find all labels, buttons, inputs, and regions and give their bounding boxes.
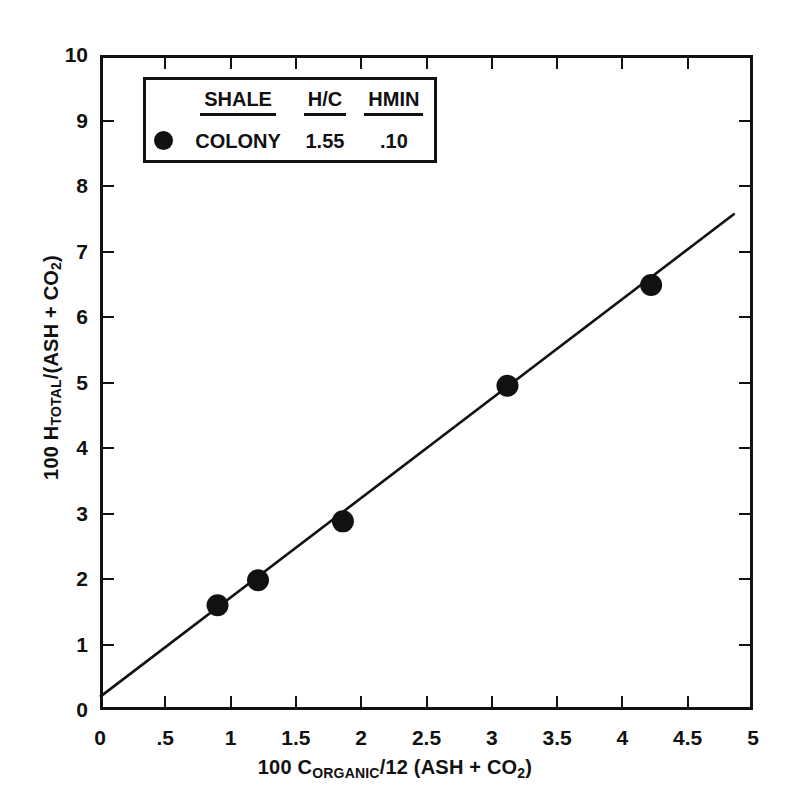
y-tick-left: [100, 513, 114, 515]
x-tick-top: [426, 55, 428, 69]
x-title-mid: /12 (ASH + CO: [380, 756, 518, 778]
x-tick-label: 3.5: [542, 726, 571, 750]
y-tick-left: [100, 316, 114, 318]
x-tick-bottom: [687, 696, 689, 710]
x-tick-label: 3: [486, 726, 498, 750]
y-tick-label: 0: [48, 698, 88, 722]
x-tick-bottom: [556, 696, 558, 710]
legend-header-shale: SHALE: [180, 80, 296, 124]
y-tick-left: [100, 578, 114, 580]
legend-header-row: SHALE H/C HMIN: [146, 80, 434, 124]
x-tick-top: [360, 55, 362, 69]
x-title-prefix: 100 C: [258, 756, 312, 778]
x-tick-bottom: [491, 696, 493, 710]
legend-box: SHALE H/C HMIN COLONY 1.55 .10: [143, 77, 437, 163]
legend-header-hmin-text: HMIN: [364, 88, 423, 116]
x-tick-top: [230, 55, 232, 69]
legend-header-spacer: [146, 80, 180, 124]
y-tick-right: [739, 251, 753, 253]
chart-figure: 0.511.522.533.544.55 012345678910 SHALE …: [0, 0, 790, 812]
x-tick-top: [621, 55, 623, 69]
y-axis-title: 100 HTOTAL/(ASH + CO2): [40, 57, 65, 677]
x-tick-bottom: [426, 696, 428, 710]
x-tick-bottom: [360, 696, 362, 710]
x-tick-bottom: [295, 696, 297, 710]
legend-header-hmin: HMIN: [354, 80, 434, 124]
x-tick-bottom: [230, 696, 232, 710]
x-tick-top: [295, 55, 297, 69]
x-axis-title: 100 CORGANIC/12 (ASH + CO2): [0, 756, 790, 781]
y-tick-right: [739, 513, 753, 515]
y-title-mid: /(ASH + CO: [40, 270, 62, 379]
x-tick-label: 4.5: [673, 726, 702, 750]
x-tick-top: [687, 55, 689, 69]
x-tick-label: 4: [617, 726, 629, 750]
y-tick-left: [100, 447, 114, 449]
y-tick-right: [739, 447, 753, 449]
y-tick-right: [739, 185, 753, 187]
x-title-subscript: ORGANIC: [312, 765, 380, 781]
legend-shale-value: COLONY: [180, 124, 296, 160]
y-tick-right: [739, 644, 753, 646]
legend-header-shale-text: SHALE: [200, 88, 276, 116]
x-tick-label: 1.5: [281, 726, 310, 750]
legend-marker-cell: [146, 124, 180, 160]
x-tick-top: [491, 55, 493, 69]
x-tick-label: 0: [94, 726, 106, 750]
y-title-subscript-2: 2: [48, 262, 64, 270]
legend-hc-value: 1.55: [296, 124, 354, 160]
y-tick-right: [739, 120, 753, 122]
x-tick-top: [556, 55, 558, 69]
x-tick-label: .5: [157, 726, 175, 750]
x-tick-label: 1: [225, 726, 237, 750]
y-tick-right: [739, 578, 753, 580]
y-tick-left: [100, 644, 114, 646]
x-tick-bottom: [621, 696, 623, 710]
x-tick-label: 5: [747, 726, 759, 750]
y-title-prefix: 100 H: [40, 426, 62, 480]
x-tick-label: 2.5: [412, 726, 441, 750]
x-tick-top: [164, 55, 166, 69]
legend-row: COLONY 1.55 .10: [146, 124, 434, 160]
filled-circle-icon: [154, 131, 173, 150]
y-title-subscript: TOTAL: [48, 379, 64, 425]
y-tick-left: [100, 185, 114, 187]
y-title-end: ): [40, 255, 62, 262]
y-tick-right: [739, 382, 753, 384]
legend-header-hc-text: H/C: [304, 88, 346, 116]
x-title-end: ): [525, 756, 532, 778]
x-tick-label: 2: [355, 726, 367, 750]
y-tick-left: [100, 120, 114, 122]
y-tick-left: [100, 251, 114, 253]
y-tick-left: [100, 382, 114, 384]
x-tick-bottom: [164, 696, 166, 710]
y-tick-right: [739, 316, 753, 318]
legend-hmin-value: .10: [354, 124, 434, 160]
legend-header-hc: H/C: [296, 80, 354, 124]
